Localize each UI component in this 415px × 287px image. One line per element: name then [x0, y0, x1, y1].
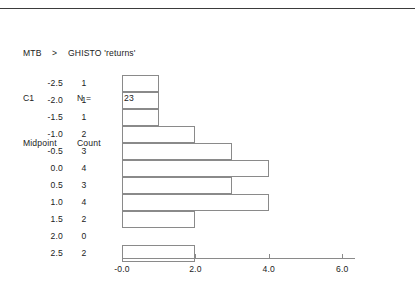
midpoint-label: 1.0	[23, 197, 63, 207]
count-label: 1	[77, 78, 91, 88]
midpoint-label: -1.5	[23, 112, 63, 122]
histogram-row: -0.53	[0, 143, 415, 160]
histogram-row: 1.04	[0, 194, 415, 211]
count-label: 1	[77, 95, 91, 105]
x-axis-tick-label: 6.0	[336, 264, 348, 274]
histogram-row: -1.02	[0, 126, 415, 143]
count-label: 1	[77, 112, 91, 122]
x-axis-tick	[342, 254, 343, 259]
histogram-bar	[122, 109, 159, 126]
histogram-bar	[122, 160, 269, 177]
x-axis-tick-label: 2.0	[189, 264, 201, 274]
session-output-page: MTB > GHISTO 'returns' C1 N = 23 Midpoin…	[0, 0, 415, 287]
count-label: 0	[77, 231, 91, 241]
x-axis-tick	[195, 254, 196, 259]
midpoint-label: 0.5	[23, 180, 63, 190]
count-label: 2	[77, 248, 91, 258]
histogram-row: -2.51	[0, 75, 415, 92]
histogram-row: 0.53	[0, 177, 415, 194]
histogram-bar	[122, 211, 195, 228]
midpoint-label: 2.0	[23, 231, 63, 241]
midpoint-label: -2.0	[23, 95, 63, 105]
histogram-row: 2.52	[0, 245, 415, 262]
count-label: 3	[77, 180, 91, 190]
histogram-bar	[122, 177, 232, 194]
midpoint-label: -1.0	[23, 129, 63, 139]
x-axis-tick	[122, 254, 123, 259]
midpoint-label: 0.0	[23, 163, 63, 173]
histogram-chart: -2.51-2.01-1.51-1.02-0.530.040.531.041.5…	[0, 0, 415, 287]
count-label: 4	[77, 197, 91, 207]
histogram-row: -2.01	[0, 92, 415, 109]
count-label: 2	[77, 129, 91, 139]
histogram-bar	[122, 245, 195, 262]
histogram-bar	[122, 75, 159, 92]
histogram-row: 2.00	[0, 228, 415, 245]
midpoint-label: -2.5	[23, 78, 63, 88]
histogram-row: 0.04	[0, 160, 415, 177]
histogram-bar	[122, 143, 232, 160]
x-axis-tick-label: 4.0	[263, 264, 275, 274]
count-label: 2	[77, 214, 91, 224]
midpoint-label: -0.5	[23, 146, 63, 156]
histogram-bar	[122, 126, 195, 143]
x-axis-line	[122, 258, 355, 259]
histogram-bar	[122, 92, 159, 109]
histogram-bar	[122, 194, 269, 211]
midpoint-label: 1.5	[23, 214, 63, 224]
count-label: 4	[77, 163, 91, 173]
histogram-row: 1.52	[0, 211, 415, 228]
histogram-row: -1.51	[0, 109, 415, 126]
x-axis-tick	[269, 254, 270, 259]
count-label: 3	[77, 146, 91, 156]
x-axis-tick-label: -0.0	[114, 264, 129, 274]
midpoint-label: 2.5	[23, 248, 63, 258]
